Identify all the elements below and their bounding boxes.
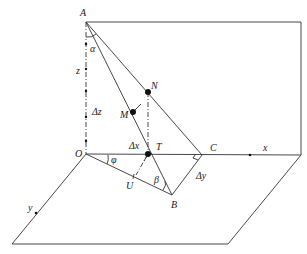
angle-alpha-arc <box>86 34 96 37</box>
x-axis <box>86 154 301 155</box>
right-angle-mark <box>193 155 198 160</box>
line-a-c <box>86 22 202 155</box>
label-n: N <box>150 80 159 91</box>
angle-phi-arc <box>107 155 108 164</box>
u-tick <box>133 174 134 179</box>
label-dz: Δz <box>91 106 102 117</box>
label-t: T <box>156 141 163 152</box>
label-dy: Δy <box>195 170 207 181</box>
label-phi: φ <box>111 154 117 165</box>
y-axis-tick <box>35 212 38 215</box>
label-u: U <box>126 180 134 191</box>
point-t <box>145 151 151 157</box>
plane-p <box>86 22 301 155</box>
label-alpha: α <box>90 43 96 54</box>
label-c: C <box>210 142 217 153</box>
geometry-diagram: A α z Δz N M O Δx T C x φ β Δy U B y <box>0 0 307 254</box>
plane-q <box>12 154 301 244</box>
label-o: O <box>75 148 82 159</box>
label-beta: β <box>153 174 159 185</box>
label-y: y <box>27 202 33 213</box>
label-dx: Δx <box>128 140 140 151</box>
x-axis-tick <box>249 154 252 157</box>
point-m <box>130 109 136 115</box>
label-z: z <box>75 65 80 76</box>
angle-beta-arc <box>163 181 166 190</box>
label-m: M <box>119 109 129 120</box>
label-x: x <box>262 142 268 153</box>
label-b: B <box>171 199 177 210</box>
label-a: A <box>79 7 87 18</box>
